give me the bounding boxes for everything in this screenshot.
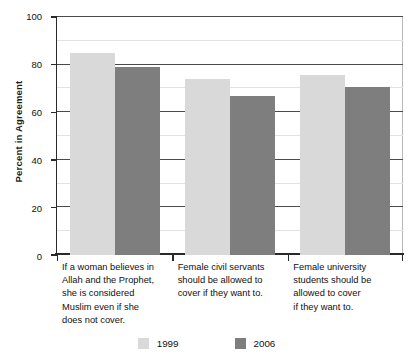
- category-label-line: If a woman believes in: [62, 261, 167, 274]
- category-label-line: Allah and the Prophet,: [62, 274, 167, 287]
- bar-2006: [230, 96, 275, 255]
- bar-1999: [185, 79, 230, 255]
- legend-swatch: [235, 338, 246, 349]
- bar-pair: [172, 17, 287, 255]
- bar-2006: [345, 87, 390, 255]
- category-label-line: Muslim even if she: [62, 301, 167, 314]
- plot-inner: 020406080100: [57, 17, 403, 255]
- category-label: Female universitystudents should beallow…: [287, 261, 403, 327]
- y-axis-label: 20: [31, 202, 42, 213]
- category-label-line: Female university: [293, 261, 398, 274]
- y-axis-title: Percent in Agreement: [13, 52, 24, 212]
- category-labels: If a woman believes inAllah and the Prop…: [56, 261, 403, 327]
- category-label-line: allowed to cover: [293, 287, 398, 300]
- y-axis-label: 80: [31, 59, 42, 70]
- category-label-line: does not cover.: [62, 314, 167, 327]
- bar-1999: [300, 75, 345, 255]
- category-label-line: should be allowed to: [178, 274, 283, 287]
- bar-group: [172, 17, 287, 255]
- category-label-line: students should be: [293, 274, 398, 287]
- y-axis-label: 60: [31, 107, 42, 118]
- bar-groups: [57, 17, 403, 255]
- bar-1999: [70, 53, 115, 255]
- legend-item-2006: 2006: [235, 338, 276, 349]
- bar-chart: Percent in Agreement 020406080100 If a w…: [0, 0, 413, 362]
- y-axis-label: 100: [26, 11, 42, 22]
- y-axis-label: 0: [37, 250, 42, 261]
- chart-legend: 19992006: [0, 338, 413, 349]
- legend-swatch: [138, 338, 149, 349]
- bar-2006: [115, 67, 160, 255]
- category-label-line: she is considered: [62, 287, 167, 300]
- category-label-line: cover if they want to.: [178, 287, 283, 300]
- category-label-line: Female civil servants: [178, 261, 283, 274]
- bar-group: [288, 17, 403, 255]
- category-label: If a woman believes inAllah and the Prop…: [56, 261, 172, 327]
- y-axis-label: 40: [31, 154, 42, 165]
- category-label-line: if they want to.: [293, 301, 398, 314]
- legend-label: 2006: [254, 338, 276, 349]
- bar-group: [57, 17, 172, 255]
- plot-area: 020406080100: [56, 16, 403, 255]
- bar-pair: [57, 17, 172, 255]
- bar-pair: [288, 17, 403, 255]
- legend-item-1999: 1999: [138, 338, 179, 349]
- category-label: Female civil servantsshould be allowed t…: [172, 261, 288, 327]
- legend-label: 1999: [157, 338, 179, 349]
